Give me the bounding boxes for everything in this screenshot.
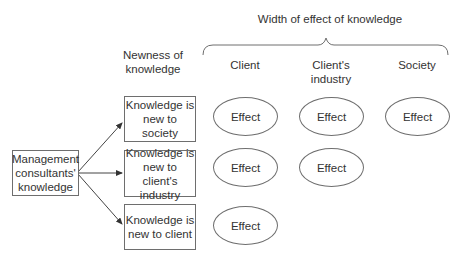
row-node-new-to-clients-industry: Knowledge is new to client's industry	[124, 150, 196, 197]
effect-client-client: Effect	[213, 206, 278, 245]
effect-society-client: Effect	[213, 97, 278, 136]
title-width-of-effect: Width of effect of knowledge	[230, 12, 430, 26]
brace	[203, 38, 448, 55]
effect-industry-client: Effect	[213, 148, 278, 187]
effect-society-industry: Effect	[299, 97, 364, 136]
row-node-new-to-client: Knowledge is new to client	[124, 204, 196, 250]
source-node-management-knowledge: Management consultants' knowledge	[12, 150, 79, 196]
arrow-to-society	[78, 123, 122, 172]
column-header-client: Client	[205, 58, 285, 72]
arrow-to-client	[78, 174, 122, 224]
effect-society-society: Effect	[385, 97, 450, 136]
row-node-new-to-society: Knowledge is new to society	[124, 96, 196, 142]
label-newness-of-knowledge: Newness of knowledge	[113, 48, 193, 76]
effect-industry-industry: Effect	[299, 148, 364, 187]
column-header-society: Society	[377, 58, 457, 72]
column-header-clients-industry: Client's industry	[291, 58, 371, 86]
